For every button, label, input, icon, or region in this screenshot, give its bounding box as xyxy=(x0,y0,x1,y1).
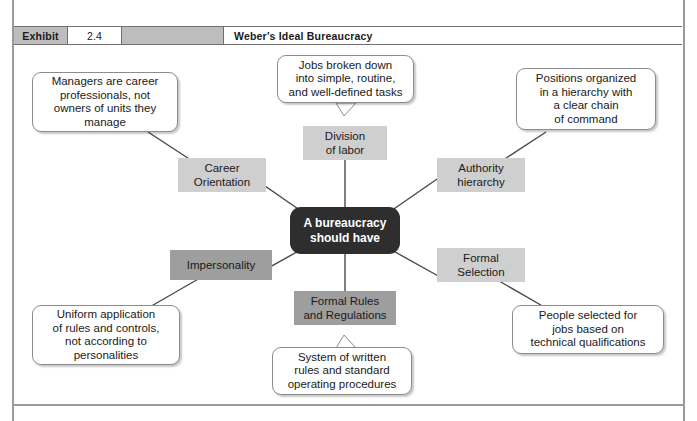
node-impersonality[interactable]: Impersonality xyxy=(170,250,272,280)
exhibit-header: Exhibit 2.4 Weber's Ideal Bureaucracy xyxy=(14,26,682,45)
callout-formal-rules: System of written rules and standard ope… xyxy=(272,347,412,395)
node-career-orientation[interactable]: Career Orientation xyxy=(178,158,266,192)
node-formal-rules[interactable]: Formal Rules and Regulations xyxy=(294,291,396,325)
exhibit-title: Weber's Ideal Bureaucracy xyxy=(224,27,682,44)
node-authority-hierarchy[interactable]: Authority hierarchy xyxy=(437,158,525,192)
exhibit-number: 2.4 xyxy=(68,27,122,44)
tail-formal-selection xyxy=(494,278,546,308)
spoke-authority-hierarchy xyxy=(388,177,440,213)
page-border-left xyxy=(12,0,14,421)
callout-authority-hierarchy: Positions organized in a hierarchy with … xyxy=(516,68,656,130)
callout-division-of-labor: Jobs broken down into simple, routine, a… xyxy=(277,55,414,103)
spoke-formal-selection xyxy=(388,248,440,277)
callout-career-orientation: Managers are career professionals, not o… xyxy=(32,72,178,132)
page-border-right xyxy=(683,0,685,421)
page-border-bottom xyxy=(12,404,684,406)
bubble-tail-division-of-labor xyxy=(336,103,356,116)
exhibit-page: Exhibit 2.4 Weber's Ideal Bureaucracy A … xyxy=(0,0,697,421)
exhibit-label: Exhibit xyxy=(14,27,68,44)
exhibit-spacer xyxy=(122,27,224,44)
callout-impersonality: Uniform application of rules and control… xyxy=(32,305,180,365)
tail-impersonality xyxy=(148,278,200,308)
callout-formal-selection: People selected for jobs based on techni… xyxy=(512,305,664,354)
node-division-of-labor[interactable]: Division of labor xyxy=(303,126,387,160)
center-node: A bureaucracy should have xyxy=(290,207,400,254)
node-formal-selection[interactable]: Formal Selection xyxy=(437,248,525,282)
